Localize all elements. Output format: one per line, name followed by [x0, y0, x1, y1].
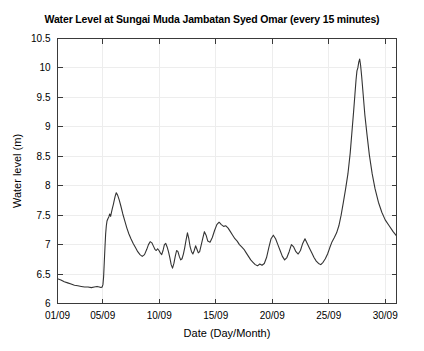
y-tick-label: 9 [45, 121, 51, 132]
x-tick-label: 20/09 [260, 310, 285, 321]
x-tick-label: 15/09 [203, 310, 228, 321]
axes-frame [58, 39, 397, 304]
y-tick-label: 6 [45, 298, 51, 309]
y-tick-label: 10.5 [31, 33, 51, 44]
x-tick-label: 10/09 [147, 310, 172, 321]
y-axis-ticks: 66.577.588.599.51010.5 [31, 33, 396, 309]
x-tick-label: 30/09 [373, 310, 398, 321]
x-tick-label: 25/09 [316, 310, 341, 321]
y-axis-title: Water level (m) [11, 134, 23, 208]
x-axis-ticks: 01/0905/0910/0915/0920/0925/0930/09 [45, 39, 398, 321]
y-tick-label: 7 [45, 239, 51, 250]
chart-figure: Water Level at Sungai Muda Jambatan Syed… [0, 0, 424, 351]
y-tick-label: 6.5 [37, 269, 51, 280]
chart-plot-svg: 66.577.588.599.51010.5 01/0905/0910/0915… [0, 0, 424, 351]
x-axis-title: Date (Day/Month) [184, 327, 271, 339]
y-tick-label: 8.5 [37, 151, 51, 162]
x-tick-label: 01/09 [45, 310, 70, 321]
series-lines [58, 59, 397, 287]
y-tick-label: 8 [45, 180, 51, 191]
grid-lines [58, 39, 397, 304]
y-tick-label: 9.5 [37, 92, 51, 103]
data-series-line [58, 59, 397, 287]
x-tick-label: 05/09 [90, 310, 115, 321]
y-tick-label: 10 [39, 62, 51, 73]
y-tick-label: 7.5 [37, 210, 51, 221]
